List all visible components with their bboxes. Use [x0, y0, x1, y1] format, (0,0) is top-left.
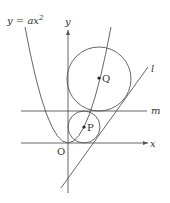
point-q — [97, 76, 100, 79]
parabola-label: y = ax2 — [6, 14, 44, 26]
parabola-label-exponent: 2 — [38, 14, 44, 22]
origin-label: O — [57, 146, 65, 157]
y-axis-label: y — [64, 16, 71, 27]
parabola-label-base: y = ax — [6, 15, 39, 26]
point-q-label: Q — [102, 73, 110, 84]
line-m-label: m — [151, 105, 160, 116]
diagram-canvas: P Q O x y m l y = ax2 — [0, 0, 170, 203]
point-p — [82, 125, 85, 128]
line-l — [61, 67, 148, 188]
point-p-label: P — [87, 122, 94, 133]
line-l-label: l — [151, 63, 154, 74]
x-axis-label: x — [150, 138, 156, 149]
